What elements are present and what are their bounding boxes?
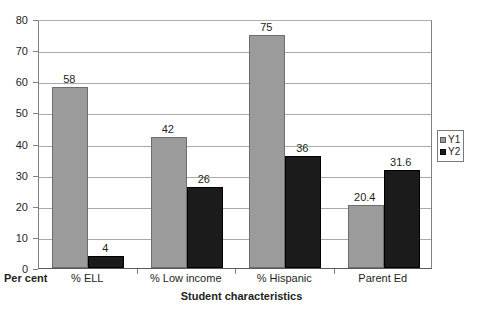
legend-label-y2: Y2 — [448, 147, 460, 157]
bar-value-label: 75 — [260, 22, 272, 33]
x-axis-category-labels: % ELL% Low income% HispanicParent Ed — [0, 272, 483, 288]
bar-value-label: 36 — [296, 143, 308, 154]
y-tick-label: 40 — [16, 139, 28, 150]
bar-value-label: 26 — [198, 174, 210, 185]
y-tick-label: 60 — [16, 77, 28, 88]
bar-y1-3[interactable] — [249, 35, 285, 268]
bar-y1-4[interactable] — [348, 205, 384, 268]
y-tick-mark — [33, 269, 38, 270]
legend-label-y1: Y1 — [448, 135, 460, 145]
x-category-label: % Low income — [150, 272, 222, 285]
bar-chart: 80 70 60 50 40 30 20 10 0 5844226753620.… — [0, 0, 483, 312]
legend-swatch-y1-icon — [440, 137, 446, 143]
y-tick-label: 50 — [16, 108, 28, 119]
y-tick-label: 70 — [16, 46, 28, 57]
bars-layer — [39, 21, 431, 268]
y-tick-label: 80 — [16, 15, 28, 26]
y-tick-label: 10 — [16, 232, 28, 243]
bar-value-label: 58 — [63, 74, 75, 85]
bar-value-label: 31.6 — [390, 157, 411, 168]
y-tick-label: 30 — [16, 170, 28, 181]
bar-y2-4[interactable] — [384, 170, 420, 268]
legend-item-y2[interactable]: Y2 — [440, 146, 460, 158]
bar-value-label: 4 — [102, 243, 108, 254]
x-category-label: Parent Ed — [358, 272, 407, 285]
legend-item-y1[interactable]: Y1 — [440, 134, 460, 146]
y-tick-label: 20 — [16, 201, 28, 212]
x-axis-title: Student characteristics — [0, 290, 483, 303]
bar-y1-2[interactable] — [151, 137, 187, 268]
x-category-label: % Hispanic — [257, 272, 312, 285]
plot-area — [38, 20, 432, 269]
legend-swatch-y2-icon — [440, 149, 446, 155]
bar-y2-2[interactable] — [187, 187, 223, 268]
bar-value-label: 42 — [162, 124, 174, 135]
bar-value-label: 20.4 — [354, 192, 375, 203]
x-category-label: % ELL — [71, 272, 103, 285]
y-axis: 80 70 60 50 40 30 20 10 0 — [0, 20, 34, 269]
bar-y2-1[interactable] — [88, 256, 124, 268]
bar-y1-1[interactable] — [52, 87, 88, 268]
legend: Y1 Y2 — [437, 130, 464, 162]
bar-y2-3[interactable] — [285, 156, 321, 268]
